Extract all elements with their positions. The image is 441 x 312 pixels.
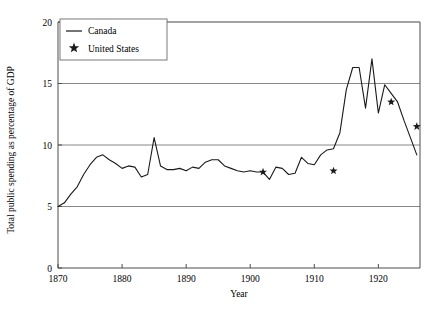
x-tick-label: 1900: [241, 274, 260, 284]
legend-label-canada: Canada: [88, 26, 117, 36]
x-axis-title: Year: [230, 289, 248, 299]
y-tick-label: 15: [43, 79, 53, 89]
legend-label-united-states: United States: [88, 44, 139, 54]
x-tick-label: 1870: [49, 274, 68, 284]
x-tick-label: 1880: [113, 274, 132, 284]
x-tick-label: 1910: [305, 274, 324, 284]
chart-figure: 187018801890190019101920 05101520 Year T…: [0, 0, 441, 312]
chart-legend: Canada United States: [60, 19, 167, 60]
chart-svg: 187018801890190019101920 05101520 Year T…: [0, 0, 441, 312]
x-tick-label: 1920: [369, 274, 388, 284]
y-axis-title: Total public spending as percentage of G…: [6, 66, 16, 234]
y-tick-label: 10: [43, 141, 53, 151]
y-tick-label: 0: [47, 264, 52, 274]
x-tick-label: 1890: [177, 274, 196, 284]
y-tick-label: 5: [47, 202, 52, 212]
y-tick-label: 20: [43, 18, 53, 28]
